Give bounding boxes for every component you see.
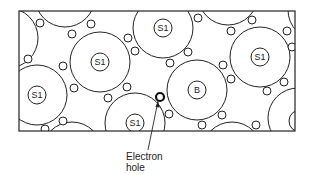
atom-label: S1	[129, 118, 140, 128]
electron	[59, 62, 67, 70]
lattice-group	[0, 0, 310, 175]
electron	[184, 48, 192, 56]
electron	[124, 34, 132, 42]
electron	[280, 78, 288, 86]
atom-label: B	[194, 85, 200, 95]
atom-shell-partial	[42, 122, 102, 175]
electron	[198, 121, 206, 129]
electron	[131, 47, 139, 55]
atom-label: S1	[94, 57, 105, 67]
electron	[166, 59, 174, 67]
electron-hole-marker	[156, 93, 164, 101]
electron	[252, 121, 260, 129]
electron	[218, 111, 226, 119]
electron	[68, 30, 76, 38]
atom-shell-partial	[288, 0, 310, 40]
electron	[123, 83, 131, 91]
electron	[263, 87, 271, 95]
electron	[283, 27, 291, 35]
electron	[87, 20, 95, 28]
electron	[59, 117, 67, 125]
electron	[36, 19, 44, 27]
electron	[227, 27, 235, 35]
electron	[248, 16, 256, 24]
electron	[165, 110, 173, 118]
annotation-leader-line	[148, 101, 158, 150]
electron	[70, 84, 78, 92]
electron	[194, 14, 202, 22]
atom-nucleus-partial	[289, 110, 310, 132]
annotation-line-2: hole	[126, 162, 145, 173]
atom-label: S1	[254, 52, 265, 62]
atom-label: S1	[31, 90, 42, 100]
annotation-line-1: Electron	[126, 151, 163, 162]
lattice-diagram: S1 S1 S1 S1 B S1 Electron hole	[0, 0, 310, 175]
electron	[24, 55, 32, 63]
electron	[219, 61, 227, 69]
atom-shell-partial	[202, 122, 262, 175]
electron	[104, 94, 112, 102]
electron	[227, 75, 235, 83]
atom-label: S1	[157, 23, 168, 33]
electron	[41, 125, 49, 133]
